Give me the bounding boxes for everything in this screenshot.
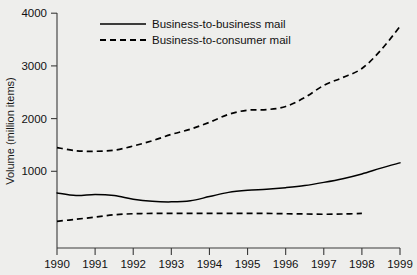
y-axis-title: Volume (million items) <box>4 77 16 185</box>
chart-legend: Business-to-business mail Business-to-co… <box>100 18 291 46</box>
x-tick-label: 1991 <box>82 258 108 270</box>
legend-label-business-to-consumer: Business-to-consumer mail <box>152 34 291 46</box>
x-tick-label: 1993 <box>159 258 185 270</box>
y-tick-label: 2000 <box>21 113 47 125</box>
x-tick-label: 1994 <box>197 258 223 270</box>
x-tick-label: 1998 <box>349 258 375 270</box>
series-line-2 <box>57 213 362 221</box>
x-tick-label: 1992 <box>120 258 146 270</box>
x-tick-label: 1990 <box>44 258 70 270</box>
chart-canvas: 1000200030004000 19901991199219931994199… <box>0 0 417 275</box>
x-axis-ticks <box>57 248 400 255</box>
x-tick-label: 1995 <box>235 258 261 270</box>
data-series-group <box>57 26 400 221</box>
y-tick-label: 1000 <box>21 165 47 177</box>
y-tick-label: 3000 <box>21 60 47 72</box>
x-tick-label: 1999 <box>387 258 413 270</box>
y-axis-ticks <box>51 13 57 171</box>
series-line-0 <box>57 163 400 202</box>
x-tick-label: 1996 <box>273 258 299 270</box>
line-chart: 1000200030004000 19901991199219931994199… <box>0 0 417 275</box>
x-axis-tick-labels: 1990199119921993199419951996199719981999 <box>44 258 413 270</box>
x-tick-label: 1997 <box>311 258 337 270</box>
legend-label-business-to-business: Business-to-business mail <box>152 18 286 30</box>
y-axis-tick-labels: 1000200030004000 <box>21 7 47 177</box>
y-tick-label: 4000 <box>21 7 47 19</box>
